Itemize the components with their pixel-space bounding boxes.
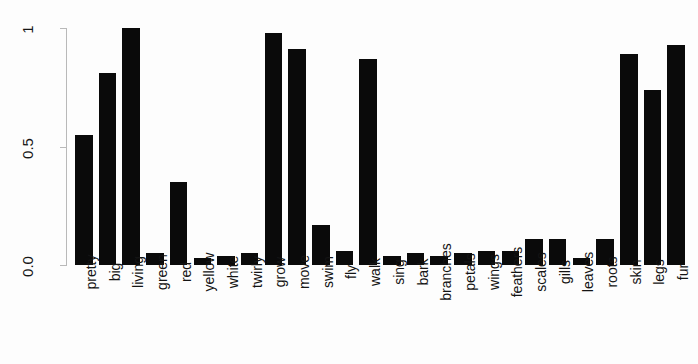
x-axis-labels: prettybiglivinggreenredyellowwhitetwirly… xyxy=(72,268,688,360)
bar xyxy=(288,49,306,265)
bar xyxy=(170,182,188,265)
x-tick-label: yellow xyxy=(190,268,214,360)
x-tick-label: walk xyxy=(356,268,380,360)
x-tick-label: legs xyxy=(641,268,665,360)
x-tick-label: living xyxy=(119,268,143,360)
y-tick-label-text: 1 xyxy=(19,25,36,33)
x-tick-label: pretty xyxy=(72,268,96,360)
bar-chart: 0.00.51 prettybiglivinggreenredyellowwhi… xyxy=(0,0,698,364)
x-tick-label: twirly xyxy=(238,268,262,360)
x-tick-label: gills xyxy=(546,268,570,360)
x-tick-label: move xyxy=(285,268,309,360)
y-tick-mark xyxy=(60,147,67,148)
y-tick-label: 0.0 xyxy=(0,258,54,272)
y-tick-label: 0.5 xyxy=(0,140,54,154)
x-tick-label: branches xyxy=(427,268,451,360)
bar xyxy=(644,90,662,265)
bar xyxy=(620,54,638,265)
x-tick-label: roots xyxy=(593,268,617,360)
x-tick-label-text: fur xyxy=(676,264,690,280)
x-tick-label: sing xyxy=(380,268,404,360)
bar xyxy=(99,73,117,265)
bar xyxy=(336,251,354,265)
x-tick-label: swim xyxy=(309,268,333,360)
bar xyxy=(265,33,283,265)
y-tick-mark xyxy=(60,28,67,29)
bar xyxy=(667,45,685,265)
y-tick-label-text: 0.5 xyxy=(18,138,35,159)
x-tick-label: bark xyxy=(404,268,428,360)
x-tick-label: grow xyxy=(262,268,286,360)
y-tick-mark xyxy=(60,265,67,266)
x-tick-label: red xyxy=(167,268,191,360)
plot-area xyxy=(72,28,688,265)
x-tick-label: feathers xyxy=(498,268,522,360)
bar xyxy=(359,59,377,265)
x-tick-label: scales xyxy=(522,268,546,360)
x-tick-label: white xyxy=(214,268,238,360)
x-tick-label: fur xyxy=(664,268,688,360)
y-tick-label: 1 xyxy=(0,21,54,35)
x-tick-label: petals xyxy=(451,268,475,360)
x-tick-label: wings xyxy=(475,268,499,360)
x-tick-label: big xyxy=(96,268,120,360)
bar xyxy=(122,28,140,265)
bar xyxy=(75,135,93,265)
x-tick-label: skin xyxy=(617,268,641,360)
x-tick-label: leaves xyxy=(570,268,594,360)
x-tick-label: green xyxy=(143,268,167,360)
x-tick-label: fly xyxy=(333,268,357,360)
y-tick-label-text: 0.0 xyxy=(18,256,35,277)
